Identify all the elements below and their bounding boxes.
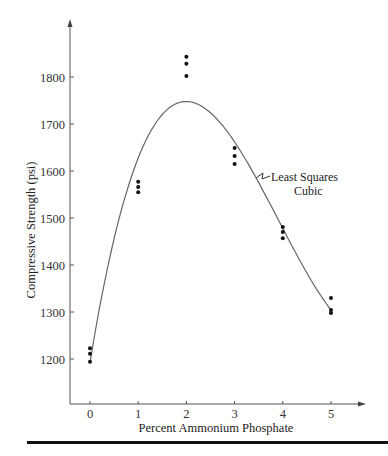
x-tick-label: 5: [328, 407, 334, 421]
x-tick-label: 0: [87, 407, 93, 421]
data-point: [281, 236, 285, 240]
data-point: [88, 352, 92, 356]
chart: 1200130014001500160017001800 012345 Leas…: [0, 0, 388, 456]
annotation-leader: [256, 173, 270, 179]
data-point: [136, 185, 140, 189]
data-point: [281, 225, 285, 229]
least-squares-cubic-curve: [90, 102, 331, 363]
data-point: [136, 180, 140, 184]
x-tick-label: 2: [183, 407, 189, 421]
annotation-line-2: Cubic: [294, 184, 323, 198]
x-tick-label: 4: [280, 407, 287, 421]
data-point: [329, 311, 333, 315]
y-tick-label: 1600: [40, 165, 65, 179]
bottom-rule: [27, 441, 388, 444]
annotation-line-1: Least Squares: [271, 170, 338, 184]
data-point: [88, 360, 92, 364]
data-point: [184, 62, 188, 66]
y-tick-label: 1500: [40, 212, 65, 226]
x-axis: 012345: [70, 401, 366, 421]
data-point: [136, 190, 140, 194]
data-point: [184, 74, 188, 78]
y-tick-label: 1700: [40, 118, 65, 132]
y-axis: 1200130014001500160017001800: [40, 19, 74, 404]
data-point: [233, 146, 237, 150]
data-point: [233, 162, 237, 166]
curve-annotation: Least Squares Cubic: [256, 170, 338, 198]
y-tick-label: 1800: [40, 71, 65, 85]
x-axis-label: Percent Ammonium Phosphate: [139, 421, 294, 435]
data-point: [329, 296, 333, 300]
y-tick-label: 1400: [40, 259, 65, 273]
x-tick-label: 1: [135, 407, 141, 421]
y-axis-arrow-icon: [68, 19, 73, 27]
data-point: [281, 230, 285, 234]
y-axis-label: Compressive Strength (psi): [24, 162, 38, 299]
data-points: [88, 55, 333, 364]
data-point: [233, 154, 237, 158]
data-point: [184, 55, 188, 59]
x-tick-label: 3: [231, 407, 237, 421]
data-point: [88, 346, 92, 350]
x-axis-arrow-icon: [358, 402, 366, 407]
y-tick-label: 1200: [40, 353, 65, 367]
y-tick-label: 1300: [40, 306, 65, 320]
